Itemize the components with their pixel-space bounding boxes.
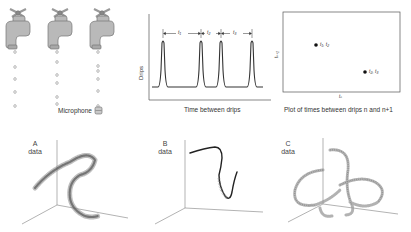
- return-map-point-label-1: t₁, t₂: [320, 41, 329, 47]
- return-map-x-axis-label: tₙ: [339, 94, 342, 99]
- return-map-point-2: [363, 70, 367, 74]
- attractor-c-plot: [270, 120, 411, 232]
- return-map-y-axis-label: tₙ₊₁: [274, 51, 279, 58]
- return-map-caption: Plot of times between drips n and n+1: [284, 106, 393, 113]
- return-map-plot: [0, 0, 411, 120]
- attractor-b-plot: [135, 120, 275, 232]
- return-map-point-label-2: t₂, t₃: [369, 68, 378, 74]
- attractor-a-plot: [0, 120, 140, 232]
- return-map-point-1: [314, 43, 318, 47]
